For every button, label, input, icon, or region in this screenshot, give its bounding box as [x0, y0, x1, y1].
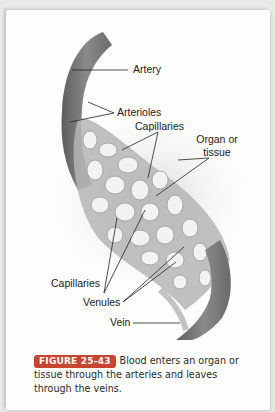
- label-artery: Artery: [133, 64, 161, 75]
- figure-number-badge: FIGURE 25-43: [34, 355, 116, 368]
- label-organ-line2: tissue: [192, 147, 242, 158]
- label-venules: Venules: [83, 297, 120, 308]
- label-capillaries-top: Capillaries: [135, 121, 184, 132]
- figure-caption: FIGURE 25-43Blood enters an organ or tis…: [34, 354, 246, 396]
- vessel-diagram: [0, 0, 275, 340]
- label-organ-line1: Organ or: [192, 134, 242, 145]
- label-arterioles: Arterioles: [117, 107, 161, 118]
- blood-vessel-illustration: Artery Arterioles Capillaries Organ or t…: [0, 0, 275, 340]
- label-vein: Vein: [110, 317, 130, 328]
- label-capillaries-bottom: Capillaries: [51, 278, 100, 289]
